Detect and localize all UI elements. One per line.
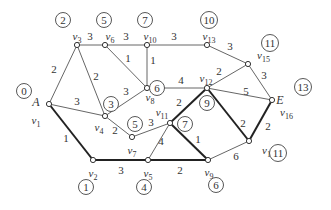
edge-v15-v16 <box>248 64 272 100</box>
edge-weights-layer: 2313231133234323524132622 <box>51 30 271 176</box>
vertex-v16 <box>269 97 274 102</box>
vertex-label-v1: v1 <box>32 114 41 129</box>
edge-weight: 4 <box>158 135 164 147</box>
distance-label-v10: 7 <box>142 14 148 26</box>
vertex-v7 <box>129 134 134 139</box>
vertex-alias-v1: A <box>31 95 40 109</box>
graph-diagram: 2313231133234323524132622 v1Av2v3v4v5v6v… <box>0 0 331 210</box>
distance-label-v5: 4 <box>141 181 147 193</box>
edge-weight: 3 <box>74 95 80 107</box>
vertex-v1 <box>46 101 51 106</box>
edge-weight: 2 <box>93 70 99 82</box>
edge-weight: 2 <box>112 124 118 136</box>
edge-weight: 2 <box>240 117 246 129</box>
distance-label-v16: 13 <box>298 81 310 93</box>
distance-label-v12: 9 <box>204 97 210 109</box>
distance-label-v2: 1 <box>83 181 89 193</box>
vertex-v2 <box>90 157 95 162</box>
distance-label-v9: 6 <box>213 179 219 191</box>
distance-label-v3: 2 <box>60 14 66 26</box>
edge-weight: 1 <box>195 133 201 145</box>
vertex-label-v7: v7 <box>128 144 137 159</box>
edge-weight: 2 <box>265 120 271 132</box>
vertex-label-v2: v2 <box>89 167 98 182</box>
edge-weight: 3 <box>148 116 154 128</box>
edge-weight: 3 <box>171 30 177 42</box>
vertex-label-v16: v16 <box>280 106 293 121</box>
edge-weight: 2 <box>216 65 222 77</box>
vertex-v8 <box>144 85 149 90</box>
edge-weight: 3 <box>261 69 267 81</box>
distance-label-v14: 11 <box>273 147 284 159</box>
edge-weight: 3 <box>87 30 93 42</box>
vertex-v4 <box>102 113 107 118</box>
vertex-v6 <box>102 42 107 47</box>
edge-weight: 2 <box>177 164 183 176</box>
distance-label-v1: 0 <box>21 85 27 97</box>
vertex-label-v13: v13 <box>203 30 216 45</box>
graph-svg: 2313231133234323524132622 v1Av2v3v4v5v6v… <box>0 0 331 210</box>
edge-weight: 2 <box>51 63 57 75</box>
vertex-v14 <box>246 138 251 143</box>
vertex-v5 <box>145 157 150 162</box>
distance-circles-layer: 01234556677910111113 <box>17 12 312 195</box>
vertex-label-v3: v3 <box>73 30 82 45</box>
edge-weight: 1 <box>125 52 131 64</box>
edge-weight: 4 <box>178 74 184 86</box>
vertex-alias-v16: E <box>275 93 284 107</box>
edge-weight: 1 <box>150 54 156 66</box>
vertex-label-v4: v4 <box>95 121 104 136</box>
vertex-v11 <box>167 120 172 125</box>
edge-weight: 1 <box>63 132 69 144</box>
vertex-v15 <box>245 61 250 66</box>
edge-v3-v4 <box>77 45 105 116</box>
edge-weight: 3 <box>227 40 233 52</box>
edge-v12-v15 <box>207 64 248 88</box>
vertex-label-v11: v11 <box>156 106 169 121</box>
distance-label-v7: 5 <box>132 118 138 130</box>
vertex-v9 <box>205 157 210 162</box>
distance-label-v6: 5 <box>101 14 107 26</box>
distance-label-v11: 7 <box>182 118 188 130</box>
distance-label-v8: 6 <box>154 82 160 94</box>
edge-weight: 5 <box>243 85 249 97</box>
edge-v9-v14 <box>208 141 249 160</box>
distance-label-v4: 3 <box>108 98 114 110</box>
distance-label-v13: 10 <box>204 14 216 26</box>
distance-label-v15: 11 <box>265 37 276 49</box>
edge-weight: 3 <box>118 164 124 176</box>
vertex-label-v12: v12 <box>200 72 213 87</box>
edge-weight: 2 <box>176 96 182 108</box>
edge-weight: 6 <box>233 150 239 162</box>
edge-weight: 3 <box>123 30 129 42</box>
edge-weight: 3 <box>123 85 129 97</box>
edge-v12-v16 <box>207 88 272 100</box>
